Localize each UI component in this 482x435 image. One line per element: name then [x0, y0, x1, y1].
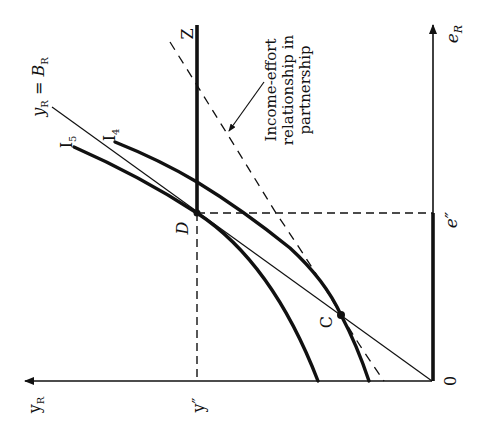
point-c-label: C: [317, 316, 336, 328]
svg-text:partnership: partnership: [296, 45, 314, 134]
point-d: [194, 210, 201, 217]
budget-line: [52, 107, 432, 381]
svg-text:I4: I4: [100, 129, 121, 142]
economics-diagram: eR e″ 0 yR y″ D C Z I5 I4 yR = BR Income…: [0, 0, 482, 435]
annotation-pointer: [229, 82, 264, 131]
indifference-curve-i4: [115, 142, 369, 381]
svg-text:Z: Z: [178, 28, 197, 39]
svg-text:relationship in: relationship in: [279, 35, 297, 146]
point-d-label: D: [173, 221, 192, 235]
svg-text:D: D: [173, 221, 192, 235]
svg-text:I5: I5: [57, 136, 78, 149]
e-r-axis-label: eR: [442, 25, 465, 43]
budget-line-label: yR = BR: [29, 57, 50, 118]
y-r-axis-label: yR: [25, 396, 46, 414]
y-double-prime-label: y″: [189, 397, 208, 413]
e-double-prime-label: e″: [441, 211, 461, 228]
svg-text:eR: eR: [442, 25, 465, 43]
svg-text:y″: y″: [189, 397, 208, 413]
point-c: [337, 311, 345, 319]
svg-text:0: 0: [441, 376, 460, 386]
annotation-income-effort: Income-effort relationship in partnershi…: [262, 35, 314, 146]
z-label: Z: [178, 28, 197, 39]
svg-text:Income-effort: Income-effort: [262, 39, 280, 142]
svg-text:C: C: [317, 316, 336, 328]
svg-text:e″: e″: [441, 211, 461, 228]
svg-text:yR = BR: yR = BR: [29, 57, 50, 118]
i4-label: I4: [100, 129, 121, 142]
origin-label: 0: [441, 376, 460, 386]
svg-text:yR: yR: [25, 396, 46, 414]
i5-label: I5: [57, 136, 78, 149]
